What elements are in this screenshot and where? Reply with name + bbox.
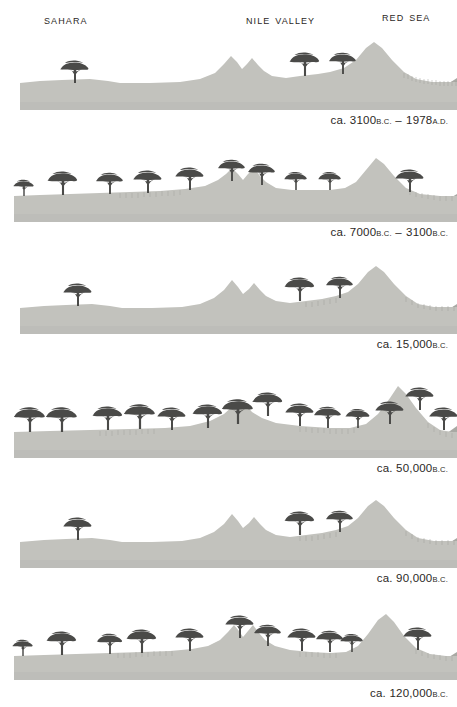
caption-to-value: 3100 — [406, 226, 432, 238]
caption-from-era: B.C. — [432, 690, 448, 699]
caption-prefix: ca. — [370, 687, 386, 699]
landscape-cross-section — [0, 150, 457, 222]
caption-from-era: B.C. — [432, 341, 448, 350]
landscape-panel: ca. 120,000B.C. — [0, 608, 457, 707]
caption-to-era: A.D. — [432, 117, 448, 126]
landscape-cross-section — [0, 496, 457, 568]
caption-from-era: B.C. — [376, 229, 392, 238]
panel-caption: ca. 3100B.C. – 1978A.D. — [330, 114, 448, 126]
region-label-sahara: Sahara — [44, 12, 88, 27]
caption-prefix: ca. — [377, 338, 393, 350]
landscape-panel: ca. 7000B.C. – 3100B.C. — [0, 150, 457, 246]
caption-to-value: 1978 — [406, 114, 432, 126]
caption-dash: – — [395, 226, 402, 238]
caption-from-value: 50,000 — [396, 462, 432, 474]
caption-prefix: ca. — [330, 114, 346, 126]
landscape-cross-section — [0, 38, 457, 110]
landscape-cross-section — [0, 262, 457, 334]
panel-caption: ca. 90,000B.C. — [377, 572, 448, 584]
caption-from-value: 15,000 — [396, 338, 432, 350]
landscape-panel: ca. 15,000B.C. — [0, 262, 457, 358]
region-label-nile-valley: Nile Valley — [246, 12, 315, 27]
caption-from-era: B.C. — [432, 465, 448, 474]
landscape-cross-section — [0, 374, 457, 458]
caption-dash: – — [395, 114, 402, 126]
panel-caption: ca. 50,000B.C. — [377, 462, 448, 474]
caption-prefix: ca. — [330, 226, 346, 238]
region-label-red-sea: Red Sea — [382, 9, 430, 24]
caption-from-value: 90,000 — [396, 572, 432, 584]
landscape-panel: ca. 50,000B.C. — [0, 374, 457, 482]
landscape-panel: ca. 3100B.C. – 1978A.D. — [0, 38, 457, 134]
panel-caption: ca. 7000B.C. – 3100B.C. — [330, 226, 448, 238]
caption-prefix: ca. — [377, 462, 393, 474]
caption-from-value: 120,000 — [389, 687, 432, 699]
caption-to-era: B.C. — [432, 229, 448, 238]
landscape-panel: ca. 90,000B.C. — [0, 496, 457, 592]
landscape-cross-section — [0, 608, 457, 680]
panel-caption: ca. 15,000B.C. — [377, 338, 448, 350]
caption-from-value: 3100 — [350, 114, 376, 126]
caption-from-era: B.C. — [432, 575, 448, 584]
caption-prefix: ca. — [377, 572, 393, 584]
panel-caption: ca. 120,000B.C. — [370, 687, 448, 699]
caption-from-era: B.C. — [376, 117, 392, 126]
region-label-row: Sahara Nile Valley Red Sea — [0, 0, 457, 34]
caption-from-value: 7000 — [350, 226, 376, 238]
